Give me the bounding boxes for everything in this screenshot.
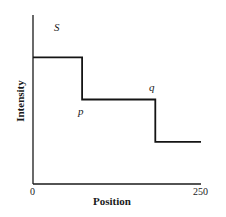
annotation-s: S <box>54 21 60 33</box>
intensity-step-line <box>33 57 201 142</box>
annotation-q: q <box>149 81 155 93</box>
x-axis-label: Position <box>93 195 131 207</box>
annotation-p: p <box>78 105 84 117</box>
chart-canvas <box>0 0 226 217</box>
x-tick-0: 0 <box>30 186 35 197</box>
x-tick-250: 250 <box>193 186 208 197</box>
y-axis-label: Intensity <box>14 71 26 131</box>
